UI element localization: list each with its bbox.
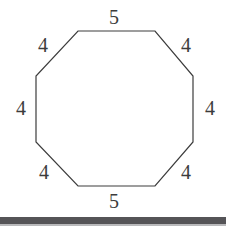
- side-label-top: 5: [103, 7, 125, 27]
- figure-canvas: 54445444: [0, 0, 226, 226]
- side-label-right: 4: [199, 98, 221, 118]
- octagon-outline: [36, 31, 193, 186]
- side-label-bottom: 5: [103, 191, 125, 211]
- scan-artifact-edge: [0, 224, 226, 226]
- side-label-lower-right: 4: [175, 162, 197, 182]
- scan-artifact-bar: [0, 217, 226, 224]
- side-label-upper-right: 4: [175, 35, 197, 55]
- side-label-lower-left: 4: [33, 162, 55, 182]
- side-label-upper-left: 4: [32, 35, 54, 55]
- side-label-left: 4: [10, 98, 32, 118]
